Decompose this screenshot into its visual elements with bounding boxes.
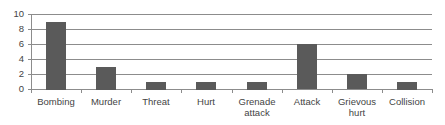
y-tick <box>28 59 31 60</box>
bar-hurt <box>196 82 216 90</box>
x-category-label: Murder <box>81 96 131 107</box>
y-tick <box>28 14 31 15</box>
bar-collision <box>397 82 417 90</box>
y-tick-label: 6 <box>6 38 24 49</box>
x-category-label: Attack <box>282 96 332 107</box>
y-tick <box>28 44 31 45</box>
gridline <box>31 74 432 75</box>
x-tick <box>382 89 383 93</box>
y-tick <box>28 29 31 30</box>
x-category-label: Grievoushurt <box>332 96 382 118</box>
x-tick <box>81 89 82 93</box>
x-category-label: Grenadeattack <box>232 96 282 118</box>
y-tick <box>28 74 31 75</box>
bar-attack <box>297 44 317 89</box>
y-tick-label: 8 <box>6 23 24 34</box>
bar-murder <box>96 67 116 90</box>
gridline <box>31 44 432 45</box>
y-tick-label: 2 <box>6 68 24 79</box>
x-category-label: Threat <box>131 96 181 107</box>
y-tick-label: 10 <box>6 8 24 19</box>
x-tick <box>432 89 433 93</box>
x-tick <box>31 89 32 93</box>
y-axis <box>31 14 32 90</box>
y-tick-label: 4 <box>6 53 24 64</box>
x-tick <box>232 89 233 93</box>
x-category-label: Bombing <box>31 96 81 107</box>
x-tick <box>332 89 333 93</box>
bar-chart: 0246810BombingMurderThreatHurtGrenadeatt… <box>0 0 445 125</box>
gridline <box>31 29 432 30</box>
bar-threat <box>146 82 166 90</box>
bar-grenade-attack <box>247 82 267 90</box>
x-tick <box>282 89 283 93</box>
y-tick-label: 0 <box>6 83 24 94</box>
gridline <box>31 59 432 60</box>
x-category-label: Hurt <box>181 96 231 107</box>
x-category-label: Collision <box>382 96 432 107</box>
bar-grievous-hurt <box>347 74 367 89</box>
bar-bombing <box>46 22 66 90</box>
x-tick <box>181 89 182 93</box>
x-tick <box>131 89 132 93</box>
gridline <box>31 14 432 15</box>
